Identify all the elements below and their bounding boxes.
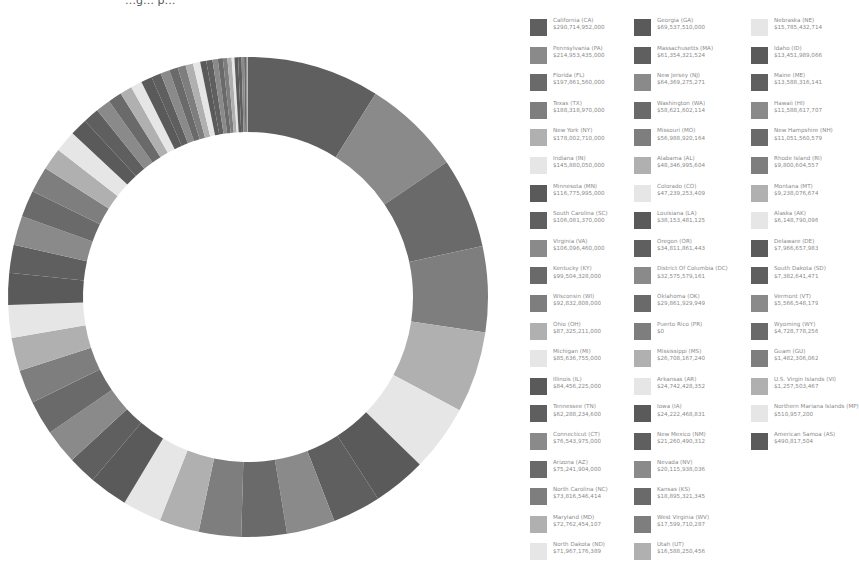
legend-item[interactable]: California (CA)$290,714,952,000 <box>530 17 634 45</box>
legend-label: Delaware (DE) <box>774 238 818 245</box>
legend-item[interactable]: Indiana (IN)$145,880,050,000 <box>530 155 634 183</box>
legend-item[interactable]: Oklahoma (OK)$29,861,929,949 <box>634 293 751 321</box>
legend-item[interactable]: Virginia (VA)$106,096,460,000 <box>530 238 634 266</box>
legend-item[interactable]: Florida (FL)$197,861,560,000 <box>530 72 634 100</box>
legend-item[interactable]: New York (NY)$178,002,710,000 <box>530 127 634 155</box>
legend-item[interactable]: Delaware (DE)$7,966,657,983 <box>751 238 859 266</box>
legend-item[interactable]: Illinois (IL)$84,456,225,000 <box>530 376 634 404</box>
legend-swatch <box>530 74 547 91</box>
legend-value: $76,543,975,000 <box>553 438 601 445</box>
legend-item[interactable]: Wyoming (WY)$4,728,778,256 <box>751 321 859 349</box>
legend-label: Vermont (VT) <box>774 293 818 300</box>
legend-item[interactable]: Louisiana (LA)$38,153,481,125 <box>634 210 751 238</box>
legend-item[interactable]: Tennessee (TN)$62,288,234,600 <box>530 403 634 431</box>
legend-item[interactable]: Iowa (IA)$24,222,468,831 <box>634 403 751 431</box>
legend-item[interactable]: Maine (ME)$13,588,316,141 <box>751 72 859 100</box>
legend-item[interactable]: Idaho (ID)$13,451,989,066 <box>751 45 859 73</box>
legend-item[interactable]: U.S. Virgin Islands (VI)$1,257,503,467 <box>751 376 859 404</box>
legend-item[interactable]: Wisconsin (WI)$92,832,808,000 <box>530 293 634 321</box>
legend-item[interactable]: Missouri (MO)$56,988,920,164 <box>634 127 751 155</box>
legend-item[interactable]: Georgia (GA)$69,537,510,000 <box>634 17 751 45</box>
legend-item[interactable]: Kentucky (KY)$99,504,328,000 <box>530 265 634 293</box>
legend-text: California (CA)$290,714,952,000 <box>553 17 605 31</box>
legend-swatch <box>634 323 651 340</box>
legend-value: $214,953,435,000 <box>553 52 605 59</box>
legend-item[interactable]: Minnesota (MN)$116,775,995,000 <box>530 183 634 211</box>
legend-swatch <box>634 240 651 257</box>
legend-value: $11,588,617,707 <box>774 107 822 114</box>
legend-item[interactable]: North Carolina (NC)$73,816,546,414 <box>530 486 634 514</box>
legend-text: Kentucky (KY)$99,504,328,000 <box>553 265 601 279</box>
legend-swatch <box>634 157 651 174</box>
legend-text: Michigan (MI)$85,636,755,000 <box>553 348 601 362</box>
legend-label: Mississippi (MS) <box>657 348 705 355</box>
legend-item[interactable]: Alaska (AK)$6,148,790,096 <box>751 210 859 238</box>
legend-label: Kentucky (KY) <box>553 265 601 272</box>
legend-item[interactable]: New Mexico (NM)$21,260,490,312 <box>634 431 751 459</box>
legend-item[interactable]: Nevada (NV)$20,115,938,036 <box>634 459 751 487</box>
legend-text: Utah (UT)$16,588,250,456 <box>657 541 705 555</box>
legend-item[interactable]: Nebraska (NE)$15,785,432,714 <box>751 17 859 45</box>
legend-label: District Of Columbia (DC) <box>657 265 728 272</box>
legend-swatch <box>530 185 547 202</box>
legend-item[interactable]: Utah (UT)$16,588,250,456 <box>634 541 751 567</box>
legend-item[interactable]: Arizona (AZ)$75,241,904,000 <box>530 459 634 487</box>
legend-item[interactable]: North Dakota (ND)$71,967,176,389 <box>530 541 634 567</box>
legend-label: Idaho (ID) <box>774 45 822 52</box>
legend-text: Rhode Island (RI)$9,800,604,557 <box>774 155 822 169</box>
legend-item[interactable]: Connecticut (CT)$76,543,975,000 <box>530 431 634 459</box>
legend-value: $85,636,755,000 <box>553 355 601 362</box>
legend-item[interactable]: District Of Columbia (DC)$32,575,579,161 <box>634 265 751 293</box>
legend-text: Nevada (NV)$20,115,938,036 <box>657 459 705 473</box>
legend-swatch <box>751 19 768 36</box>
legend-item[interactable]: South Carolina (SC)$106,081,370,000 <box>530 210 634 238</box>
legend-item[interactable]: New Jersey (NJ)$64,369,275,271 <box>634 72 751 100</box>
legend-swatch <box>530 47 547 64</box>
legend-text: Texas (TX)$188,318,970,000 <box>553 100 605 114</box>
legend-swatch <box>751 185 768 202</box>
legend-label: Oregon (OR) <box>657 238 705 245</box>
legend-item[interactable]: Puerto Rico (PR)$0 <box>634 321 751 349</box>
legend-label: West Virginia (WV) <box>657 514 709 521</box>
legend-item[interactable]: Colorado (CO)$47,239,253,409 <box>634 183 751 211</box>
legend-value: $20,115,938,036 <box>657 466 705 473</box>
legend-item[interactable]: Michigan (MI)$85,636,755,000 <box>530 348 634 376</box>
legend-swatch <box>634 405 651 422</box>
legend-swatch <box>751 323 768 340</box>
legend-label: Arkansas (AR) <box>657 376 705 383</box>
legend-label: Ohio (OH) <box>553 321 601 328</box>
legend-item[interactable]: West Virginia (WV)$17,599,710,287 <box>634 514 751 542</box>
legend-label: Kansas (KS) <box>657 486 705 493</box>
legend-item[interactable]: Rhode Island (RI)$9,800,604,557 <box>751 155 859 183</box>
legend-swatch <box>530 433 547 450</box>
legend-item[interactable]: Guam (GU)$1,482,306,062 <box>751 348 859 376</box>
legend-item[interactable]: South Dakota (SD)$7,382,641,471 <box>751 265 859 293</box>
legend-item[interactable]: Vermont (VT)$5,566,548,179 <box>751 293 859 321</box>
legend-item[interactable]: Washington (WA)$58,621,602,114 <box>634 100 751 128</box>
legend-item[interactable]: Pennsylvania (PA)$214,953,435,000 <box>530 45 634 73</box>
legend-item[interactable]: American Samoa (AS)$490,817,504 <box>751 431 859 459</box>
legend-swatch <box>530 516 547 533</box>
legend-item[interactable]: Hawaii (HI)$11,588,617,707 <box>751 100 859 128</box>
legend-item[interactable]: Massachusetts (MA)$61,354,321,524 <box>634 45 751 73</box>
legend-item[interactable]: Northern Mariana Islands (MP)$510,957,20… <box>751 403 859 431</box>
legend-item[interactable]: Alabama (AL)$48,346,995,604 <box>634 155 751 183</box>
legend-text: Ohio (OH)$87,325,211,000 <box>553 321 601 335</box>
legend-label: American Samoa (AS) <box>774 431 835 438</box>
legend-item[interactable]: Montana (MT)$9,238,076,674 <box>751 183 859 211</box>
legend-item[interactable]: Kansas (KS)$18,895,321,345 <box>634 486 751 514</box>
legend-item[interactable]: Oregon (OR)$34,811,861,443 <box>634 238 751 266</box>
legend-swatch <box>634 19 651 36</box>
legend-item[interactable]: Ohio (OH)$87,325,211,000 <box>530 321 634 349</box>
legend-item[interactable]: Texas (TX)$188,318,970,000 <box>530 100 634 128</box>
legend-label: Nebraska (NE) <box>774 17 822 24</box>
legend-item[interactable]: New Hampshire (NH)$11,051,560,579 <box>751 127 859 155</box>
legend-text: Iowa (IA)$24,222,468,831 <box>657 403 705 417</box>
legend-text: New York (NY)$178,002,710,000 <box>553 127 605 141</box>
legend-item[interactable]: Mississippi (MS)$26,708,167,240 <box>634 348 751 376</box>
legend-item[interactable]: Arkansas (AR)$24,742,428,352 <box>634 376 751 404</box>
legend-text: Virginia (VA)$106,096,460,000 <box>553 238 605 252</box>
legend-label: Nevada (NV) <box>657 459 705 466</box>
legend-text: Montana (MT)$9,238,076,674 <box>774 183 818 197</box>
legend-item[interactable]: Maryland (MD)$72,762,454,107 <box>530 514 634 542</box>
